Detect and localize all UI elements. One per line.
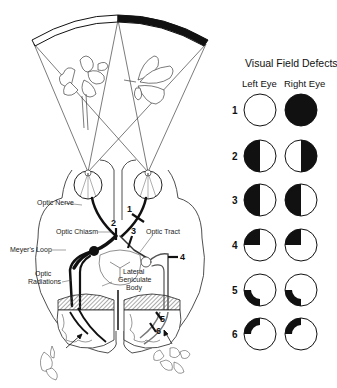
lesion-2: 2 — [111, 218, 116, 228]
label-optic-tract: Optic Tract — [146, 228, 180, 236]
field-row5-left — [244, 274, 276, 306]
row-number-3: 3 — [232, 195, 238, 206]
lesion-5: 5 — [160, 314, 165, 324]
label-optic-chiasm: Optic Chiasm — [56, 228, 98, 236]
panel-title: Visual Field Defects — [245, 57, 337, 69]
label-lgb-1: Lateral — [123, 268, 145, 275]
projection-lines — [34, 20, 206, 172]
column-right-eye: Right Eye — [284, 78, 325, 89]
lesion-1: 1 — [127, 204, 132, 214]
butterfly-small-icon — [40, 346, 57, 380]
field-row2-left — [244, 140, 276, 172]
right-occipital-lobe — [124, 294, 181, 348]
field-row6-left — [244, 318, 276, 350]
row-number-1: 1 — [232, 105, 238, 116]
visual-field-defects-panel: Visual Field Defects Left Eye Right Eye … — [232, 57, 337, 350]
field-row4-left — [244, 229, 276, 261]
right-eye — [134, 170, 162, 199]
flower-small-icon — [154, 348, 190, 374]
label-lgb-3: Body — [126, 284, 142, 292]
field-row5-right — [285, 274, 317, 306]
field-row3-right — [285, 184, 317, 216]
field-row2-right — [285, 140, 317, 172]
lesion-3: 3 — [131, 226, 136, 236]
field-row3-left — [244, 184, 276, 216]
lesion-6: 6 — [156, 326, 161, 336]
column-left-eye: Left Eye — [242, 78, 277, 89]
field-row1-left — [244, 94, 276, 126]
butterfly-icon — [124, 56, 173, 104]
row-number-6: 6 — [232, 329, 238, 340]
left-eye — [74, 170, 102, 199]
diagram-labels: Optic Nerve Optic Chiasm Optic Tract Mey… — [10, 199, 180, 292]
row-number-2: 2 — [232, 151, 238, 162]
label-optic-radiations-1: Optic — [35, 270, 52, 278]
field-row4-right — [285, 229, 317, 261]
label-optic-radiations-2: Radiations — [28, 278, 62, 285]
label-optic-nerve: Optic Nerve — [37, 199, 74, 207]
label-lgb-2: Geniculate — [118, 276, 152, 283]
row-number-5: 5 — [232, 285, 238, 296]
field-row6-right — [285, 318, 317, 350]
lesion-4: 4 — [180, 252, 185, 262]
field-row1-right — [285, 94, 317, 126]
label-meyers-loop: Meyer's Loop — [10, 246, 52, 254]
row-number-4: 4 — [232, 240, 238, 251]
visual-pathway-diagram: 1 2 3 4 5 6 Optic Nerve Optic Chiasm — [0, 0, 337, 388]
left-occipital-lobe — [57, 294, 114, 348]
